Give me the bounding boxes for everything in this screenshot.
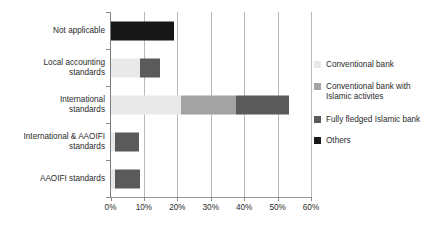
category-label: Not applicable — [0, 26, 105, 36]
x-axis-tick-label: 10% — [136, 203, 152, 212]
legend-item[interactable]: Fully fledged Islamic bank — [314, 115, 420, 125]
category-label: International standards — [0, 95, 105, 115]
bar-row — [111, 169, 312, 188]
x-axis-tick-label: 30% — [203, 203, 219, 212]
bar-segment — [111, 58, 140, 77]
category-label: International & AAOIFI standards — [0, 132, 105, 152]
bar-segment — [111, 95, 182, 114]
bar-segment — [115, 169, 140, 188]
x-axis-tick — [144, 197, 145, 201]
legend-swatch-icon — [314, 61, 321, 68]
legend-item[interactable]: Conventional bank with Islamic activites — [314, 82, 411, 102]
y-axis-tick — [106, 49, 111, 50]
bar-row — [111, 132, 312, 151]
x-axis-tick-label: 40% — [236, 203, 252, 212]
x-axis-tick-label: 60% — [303, 203, 319, 212]
y-axis-tick — [106, 12, 111, 13]
legend-label: Others — [326, 136, 351, 146]
bar-segment — [236, 95, 289, 114]
category-label: AAOIFI standards — [0, 174, 105, 184]
bar-segment — [115, 132, 139, 151]
legend-item[interactable]: Others — [314, 136, 351, 146]
legend-label: Conventional bank — [326, 60, 394, 70]
category-axis-labels: Not applicableLocal accounting standards… — [0, 12, 105, 197]
x-axis-tick-label: 50% — [269, 203, 285, 212]
y-axis-tick — [106, 123, 111, 124]
bar-row — [111, 58, 312, 77]
gridline — [311, 12, 312, 197]
x-axis-tick — [311, 197, 312, 201]
y-axis-tick — [106, 160, 111, 161]
plot-area — [111, 12, 312, 197]
y-axis-tick — [106, 197, 111, 198]
x-axis-tick-label: 0% — [105, 203, 117, 212]
x-axis-tick-label: 20% — [169, 203, 185, 212]
legend-swatch-icon — [314, 116, 321, 123]
category-label: Local accounting standards — [0, 58, 105, 78]
bar-segment — [181, 95, 236, 114]
x-axis-tick — [177, 197, 178, 201]
legend-item[interactable]: Conventional bank — [314, 60, 394, 70]
stacked-bar-chart: Not applicableLocal accounting standards… — [0, 0, 437, 231]
x-axis-tick — [211, 197, 212, 201]
bar-segment — [140, 58, 160, 77]
x-axis-tick — [278, 197, 279, 201]
bar-row — [111, 95, 312, 114]
x-axis-tick — [244, 197, 245, 201]
legend-swatch-icon — [314, 137, 321, 144]
bar-segment — [111, 21, 174, 40]
legend-label: Conventional bank with Islamic activites — [326, 82, 411, 102]
legend-swatch-icon — [314, 83, 321, 90]
y-axis-tick — [106, 86, 111, 87]
bar-row — [111, 21, 312, 40]
legend-label: Fully fledged Islamic bank — [326, 115, 420, 125]
